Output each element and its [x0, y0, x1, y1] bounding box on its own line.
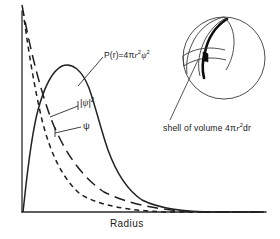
psi-curve [23, 11, 262, 212]
radial-probability-figure: P(r)=4πr2ψ2 |ψ|2 ψ shell of volume 4πr2d… [0, 0, 280, 239]
psi-squared-exponent: 2 [91, 96, 95, 103]
psi-squared-label: |ψ|2 [80, 98, 94, 109]
meridian-seam [224, 17, 234, 70]
shell-caption-label: shell of volume 4πr2dr [163, 124, 251, 133]
x-axis-label: Radius [110, 219, 144, 229]
psi-squared-curve [22, 5, 264, 212]
equator-shell-thickness [203, 52, 208, 62]
psi-squared-leader-line [50, 106, 78, 117]
psi-leader-line [55, 127, 81, 133]
sphere-outline-circle [183, 17, 265, 99]
sphere-shell-inset [183, 17, 265, 99]
pr-psi-exponent: 2 [147, 49, 150, 55]
shell-prefix-text: shell of volume 4π [163, 123, 236, 133]
pr-leader-line [78, 57, 103, 86]
shell-leader-line [170, 60, 198, 120]
pr-formula-label: P(r)=4πr2ψ2 [104, 51, 150, 60]
axes-group [22, 11, 266, 212]
pr-prefix-text: P(r)=4π [104, 50, 134, 60]
shell-suffix-text: dr [243, 123, 251, 133]
psi-label: ψ [83, 121, 90, 131]
figure-canvas [0, 0, 280, 239]
